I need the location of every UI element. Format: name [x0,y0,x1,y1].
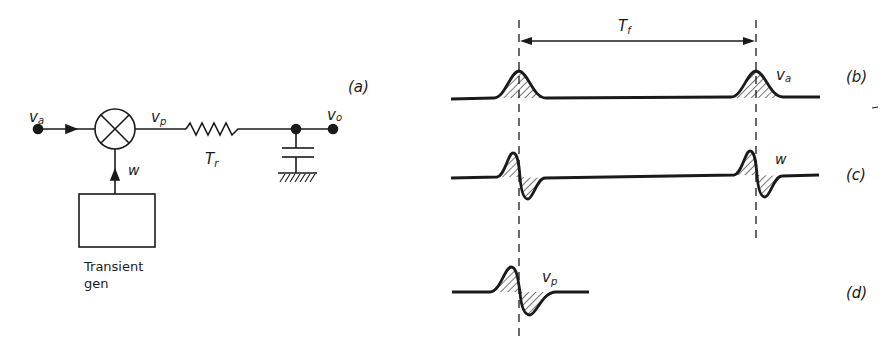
generator-label-line1: Transient [83,259,143,274]
panel-label-c: (c) [846,166,866,184]
signal-label-d: vp [542,268,557,287]
panel-label-d: (d) [846,284,867,302]
resistor-label: Tr [205,150,219,169]
waveform-c [451,151,819,199]
input-arrow-icon [66,125,76,133]
mixer-output-label: vp [151,108,166,127]
input-label: va [29,108,44,126]
period-label: Tf [618,17,632,36]
panel-label-b: (b) [846,68,867,86]
period-arrow-left-icon [520,37,532,45]
resistor-icon [186,123,244,135]
waveform-panels [451,20,878,338]
period-arrow-right-icon [743,37,755,45]
waveform-b [451,71,820,99]
signal-label-b: va [776,66,791,84]
signal-label-c: w [775,151,787,167]
diagram-canvas: (a) va vp w Tr vo Transient gen [0,0,894,348]
control-label: w [128,162,140,178]
control-arrow-icon [111,170,119,180]
waveform-d [452,267,589,315]
output-node [329,125,338,134]
panel-label-a: (a) [348,78,369,96]
circuit-diagram [34,109,338,247]
generator-label-line2: gen [84,276,109,291]
output-label: vo [327,106,342,124]
transient-generator-box [79,194,155,247]
ground-icon [278,173,317,182]
